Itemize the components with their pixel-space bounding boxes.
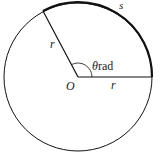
angle-label: θrad	[92, 59, 113, 73]
radius-label-slanted: r	[50, 37, 55, 51]
arc-label: s	[119, 0, 123, 11]
angle-unit: rad	[98, 59, 113, 73]
radius-line-slanted	[43, 11, 78, 77]
radius-label-horizontal: r	[111, 78, 116, 92]
circle-arc-diagram: r O r s θrad	[0, 0, 160, 160]
center-label: O	[66, 79, 75, 93]
